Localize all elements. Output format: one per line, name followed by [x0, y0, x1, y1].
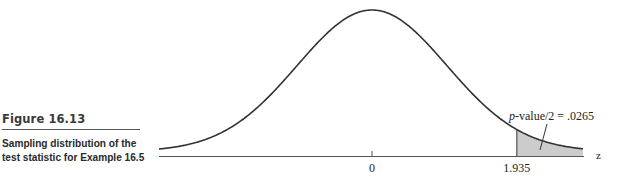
axis-label-z: z: [596, 149, 601, 161]
tick-label-critical: 1.935: [503, 161, 530, 175]
annotation-p: p: [508, 109, 515, 123]
p-value-annotation: p-value/2 = .0265: [508, 109, 594, 123]
normal-curve: [159, 10, 583, 149]
annotation-text: -value/2 = .0265: [515, 109, 594, 123]
normal-distribution-chart: 0 1.935 z p-value/2 = .0265: [0, 0, 619, 187]
tick-label-zero: 0: [369, 161, 375, 175]
